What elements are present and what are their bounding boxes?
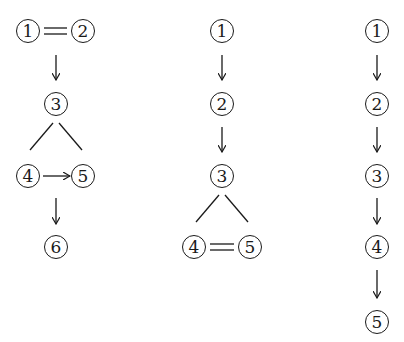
d1-node-6: 6 [44, 235, 68, 259]
branch-3-to-5 [225, 195, 248, 222]
d2-node-1: 1 [210, 19, 234, 43]
d3-node-1: 1 [365, 19, 389, 43]
branch-3-to-4 [196, 195, 219, 222]
d1-node-3: 3 [44, 92, 68, 116]
d1-node-5: 5 [71, 164, 95, 188]
d3-node-5: 5 [365, 310, 389, 334]
edges-layer [0, 0, 404, 342]
d1-node-2: 2 [71, 19, 95, 43]
diagram-2-edges [196, 55, 248, 250]
d1-node-1: 1 [16, 19, 40, 43]
d1-node-4: 4 [16, 164, 40, 188]
branch-3-to-4 [30, 123, 53, 150]
d2-node-3: 3 [210, 164, 234, 188]
diagram-canvas: 1 2 3 4 5 6 1 2 3 4 5 1 2 3 4 5 [0, 0, 404, 342]
d3-node-4: 4 [365, 235, 389, 259]
d2-node-4: 4 [182, 235, 206, 259]
diagram-1-edges [30, 28, 82, 224]
branch-3-to-5 [59, 123, 82, 150]
d3-node-2: 2 [365, 92, 389, 116]
d2-node-5: 5 [238, 235, 262, 259]
d2-node-2: 2 [210, 92, 234, 116]
d3-node-3: 3 [365, 164, 389, 188]
